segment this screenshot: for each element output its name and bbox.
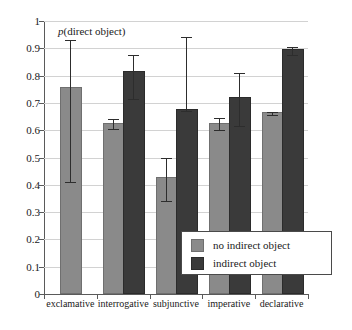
error-bar-line (239, 73, 240, 126)
y-tick-label: 0.3 (26, 207, 40, 218)
legend-swatch-light-icon (191, 239, 204, 252)
y-tick-mark (39, 267, 44, 268)
y-tick-label: 0.6 (26, 125, 40, 136)
error-bar-line (219, 118, 220, 130)
y-tick-mark (39, 185, 44, 186)
error-bar-cap-lower (267, 115, 278, 116)
error-bar-line (166, 158, 167, 202)
legend-label-no-indirect-object: no indirect object (213, 239, 290, 251)
chart-annotation: p(direct object) (58, 25, 126, 37)
y-tick-label: 0.5 (26, 152, 40, 163)
y-tick-mark (39, 48, 44, 49)
error-bar-cap-lower (287, 55, 298, 56)
gridline (44, 21, 308, 22)
bar (60, 87, 82, 294)
x-tick-mark (308, 294, 309, 299)
error-bar-cap-upper (65, 40, 76, 41)
error-bar-cap-upper (287, 47, 298, 48)
error-bar-cap-upper (128, 55, 139, 56)
gridline (44, 76, 308, 77)
error-bar-line (70, 40, 71, 182)
error-bar-cap-lower (65, 182, 76, 183)
y-tick-mark (39, 158, 44, 159)
error-bar-cap-upper (181, 37, 192, 38)
x-tick-mark (202, 294, 203, 299)
error-bar-cap-upper (214, 118, 225, 119)
x-tick-label: interrogative (98, 298, 149, 309)
x-tick-label: imperative (207, 298, 250, 309)
x-tick-mark (255, 294, 256, 299)
y-tick-label: 0.1 (26, 261, 40, 272)
y-tick-label: 0.9 (26, 43, 40, 54)
y-tick-mark (39, 239, 44, 240)
x-axis-line (44, 294, 308, 295)
error-bar-line (113, 119, 114, 129)
error-bar-cap-lower (214, 130, 225, 131)
error-bar-cap-upper (267, 112, 278, 113)
legend-label-indirect-object: indirect object (213, 257, 276, 269)
x-tick-label: subjunctive (153, 298, 199, 309)
bar (123, 71, 145, 294)
y-tick-mark (39, 212, 44, 213)
annotation-text: (direct object) (64, 25, 126, 37)
legend-swatch-dark-icon (191, 257, 204, 270)
error-bar-line (133, 55, 134, 99)
error-bar-line (292, 47, 293, 55)
legend: no indirect object indirect object (181, 231, 332, 275)
y-tick-mark (39, 130, 44, 131)
bar-chart: 00.10.20.30.40.50.60.70.80.91 exclamativ… (0, 0, 352, 330)
y-tick-mark (39, 21, 44, 22)
x-tick-mark (150, 294, 151, 299)
error-bar-cap-lower (161, 201, 172, 202)
error-bar-cap-upper (234, 73, 245, 74)
x-tick-mark (44, 294, 45, 299)
gridline (44, 48, 308, 49)
legend-item-no-indirect-object: no indirect object (191, 238, 290, 252)
y-tick-mark (39, 76, 44, 77)
legend-item-indirect-object: indirect object (191, 256, 276, 270)
bar (103, 123, 125, 294)
y-tick-label: 0.8 (26, 70, 40, 81)
y-tick-mark (39, 103, 44, 104)
y-tick-label: 0.4 (26, 179, 40, 190)
y-axis-labels: 00.10.20.30.40.50.60.70.80.91 (0, 21, 40, 294)
error-bar-cap-upper (108, 119, 119, 120)
x-tick-label: exclamative (46, 298, 94, 309)
error-bar-cap-lower (128, 99, 139, 100)
y-tick-label: 0.2 (26, 234, 40, 245)
error-bar-cap-lower (181, 111, 192, 112)
error-bar-cap-lower (234, 126, 245, 127)
x-tick-label: declarative (260, 298, 304, 309)
error-bar-cap-upper (161, 158, 172, 159)
error-bar-line (186, 37, 187, 111)
error-bar-cap-lower (108, 129, 119, 130)
y-tick-label: 0.7 (26, 97, 40, 108)
bar (156, 177, 178, 294)
gridline (44, 103, 308, 104)
